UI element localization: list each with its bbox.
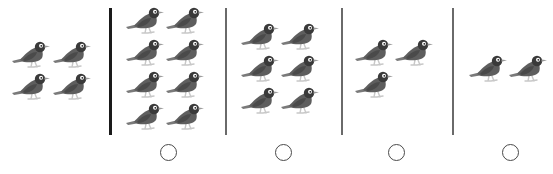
- bird-icon: [353, 38, 395, 68]
- answer-circle-group-b[interactable]: [275, 144, 292, 161]
- bird-icon: [279, 86, 321, 116]
- bird-icon: [239, 54, 281, 84]
- answer-circle-group-a[interactable]: [160, 144, 177, 161]
- bird-icon: [124, 102, 166, 132]
- bird-icon: [51, 40, 93, 70]
- answer-circle-group-d[interactable]: [502, 144, 519, 161]
- bird-icon: [393, 38, 435, 68]
- answer-circle-group-c[interactable]: [388, 144, 405, 161]
- bird-icon: [164, 70, 206, 100]
- group-divider: [225, 8, 227, 135]
- bird-icon: [10, 40, 52, 70]
- bird-icon: [353, 70, 395, 100]
- reference-divider: [109, 8, 112, 135]
- bird-icon: [164, 38, 206, 68]
- bird-icon: [279, 54, 321, 84]
- bird-icon: [239, 86, 281, 116]
- bird-icon: [124, 70, 166, 100]
- bird-icon: [51, 72, 93, 102]
- bird-icon: [507, 54, 549, 84]
- bird-icon: [164, 102, 206, 132]
- bird-icon: [279, 22, 321, 52]
- bird-icon: [239, 22, 281, 52]
- group-divider: [452, 8, 454, 135]
- bird-icon: [124, 6, 166, 36]
- group-divider: [341, 8, 343, 135]
- counting-worksheet: Compare each group with the reference gr…: [0, 0, 553, 174]
- bird-icon: [467, 54, 509, 84]
- bird-icon: [164, 6, 206, 36]
- instruction: Compare each group with the reference gr…: [0, 0, 1, 1]
- bird-icon: [10, 72, 52, 102]
- bird-icon: [124, 38, 166, 68]
